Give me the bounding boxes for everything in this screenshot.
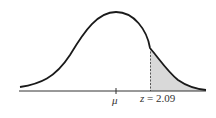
bell-curve [20, 12, 206, 90]
normal-curve-diagram [0, 0, 216, 118]
z-value: 2.09 [156, 92, 175, 104]
shaded-tail-region [150, 48, 206, 91]
mean-label: μ [112, 94, 118, 106]
equals-sign: = [144, 92, 156, 104]
z-score-label: z = 2.09 [140, 92, 175, 104]
